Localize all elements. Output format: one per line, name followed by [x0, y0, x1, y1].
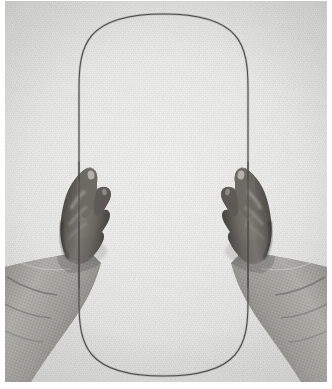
- photograph-frame: [0, 0, 332, 389]
- wire-grip-overlay: [5, 1, 327, 382]
- photograph-plate: [5, 1, 327, 382]
